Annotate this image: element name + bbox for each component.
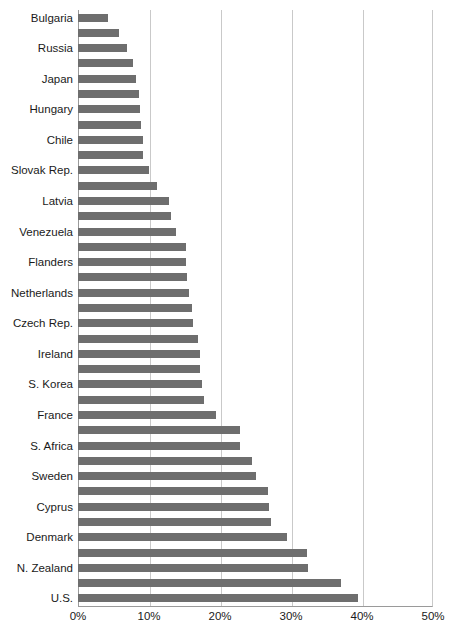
bar [78,75,136,83]
bar [78,197,169,205]
bar-row [78,59,433,67]
bar-row [78,518,433,526]
category-label: Flanders [0,256,73,268]
bar-row [78,426,433,434]
bar [78,105,140,113]
bar-row [78,258,433,266]
bar-row [78,549,433,557]
bar-row [78,75,433,83]
horizontal-bar-chart: BulgariaRussiaJapanHungaryChileSlovak Re… [0,0,453,635]
bar [78,564,308,572]
x-tick-label: 40% [350,610,373,622]
bar-row [78,212,433,220]
category-label: S. Africa [0,440,73,452]
bar [78,258,186,266]
bar [78,487,268,495]
category-label: Chile [0,134,73,146]
bar [78,228,176,236]
bar [78,442,240,450]
bar-row [78,105,433,113]
bar [78,166,149,174]
bar-row [78,182,433,190]
bar-row [78,136,433,144]
bar [78,289,189,297]
bar [78,273,187,281]
bar [78,579,341,587]
bar [78,380,202,388]
bar-row [78,151,433,159]
bar-row [78,380,433,388]
bar [78,29,119,37]
x-axis-tick-labels: 0%10%20%30%40%50% [0,610,453,632]
bar [78,121,141,129]
bar [78,182,157,190]
bar-row [78,365,433,373]
x-tick-label: 50% [421,610,444,622]
bar [78,136,143,144]
category-label: Venezuela [0,226,73,238]
category-label: Ireland [0,348,73,360]
category-labels: BulgariaRussiaJapanHungaryChileSlovak Re… [0,10,73,606]
bar-row [78,350,433,358]
bar-row [78,166,433,174]
bar-row [78,564,433,572]
bar [78,396,204,404]
bar-row [78,411,433,419]
x-tick-label: 30% [279,610,302,622]
bar-row [78,533,433,541]
bar [78,59,133,67]
category-label: France [0,409,73,421]
bar-row [78,472,433,480]
category-label: Bulgaria [0,12,73,24]
bar [78,335,198,343]
bar [78,350,200,358]
bar [78,426,240,434]
bar [78,212,171,220]
bar [78,365,200,373]
bar [78,503,269,511]
bar-row [78,442,433,450]
bar-row [78,304,433,312]
bar-row [78,14,433,22]
x-tick-label: 10% [137,610,160,622]
bar [78,44,127,52]
bar-row [78,289,433,297]
bar [78,304,192,312]
category-label: Slovak Rep. [0,164,73,176]
bar-row [78,90,433,98]
bar-row [78,457,433,465]
bar-row [78,396,433,404]
bar [78,14,108,22]
bar [78,319,193,327]
category-label: Latvia [0,195,73,207]
bar-row [78,579,433,587]
category-label: Russia [0,42,73,54]
bar-row [78,319,433,327]
category-label: Japan [0,73,73,85]
x-tick-label: 0% [70,610,87,622]
bar [78,151,143,159]
bar-row [78,228,433,236]
bar [78,457,252,465]
bar-row [78,197,433,205]
category-label: Sweden [0,470,73,482]
bars-layer [78,10,433,606]
bar-row [78,335,433,343]
category-label: Czech Rep. [0,317,73,329]
bar [78,518,271,526]
category-label: S. Korea [0,378,73,390]
bar [78,549,307,557]
category-label: Denmark [0,531,73,543]
bar-row [78,44,433,52]
bar-row [78,594,433,602]
bar-row [78,503,433,511]
x-tick-label: 20% [208,610,231,622]
category-label: Hungary [0,103,73,115]
bar [78,243,186,251]
bar [78,90,139,98]
bar [78,594,358,602]
bar-row [78,29,433,37]
bar [78,533,287,541]
bar-row [78,121,433,129]
bar-row [78,273,433,281]
